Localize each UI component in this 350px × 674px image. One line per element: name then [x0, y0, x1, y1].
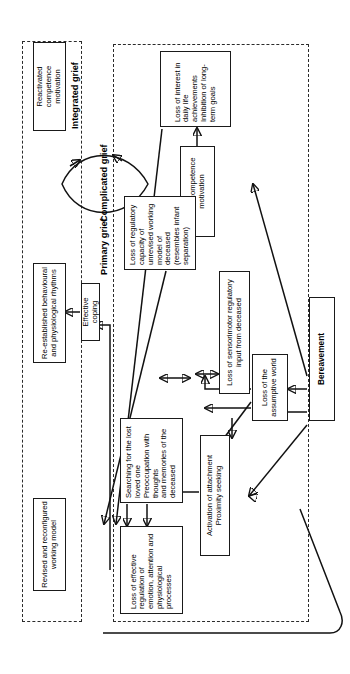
node-bereavement[interactable]: Bereavement	[309, 297, 335, 421]
node-reactivated-competence-label: Reactivated competence motivation	[36, 45, 62, 128]
node-sensorimotor-loss-label: Loss of sensorimotor regulatory input fr…	[226, 279, 244, 385]
node-activation-attachment[interactable]: Activation of attachment Proximity seeki…	[200, 435, 230, 556]
node-searching-preoccupation-label: Searching for the lost loved one Preoccu…	[125, 421, 178, 498]
label-complicated-grief: Complicated grief	[99, 144, 109, 222]
diagram-root: Bereavement Loss of the assumptive world…	[0, 0, 350, 674]
node-loss-of-interest-label: Loss of interest in daily life achieveme…	[174, 54, 218, 122]
node-effective-coping[interactable]: Effective coping	[81, 283, 100, 341]
node-reestablished-rhythms[interactable]: Re-established behavioural and physiolog…	[33, 263, 66, 363]
node-regulatory-capacity-label: Loss of regulatory capacity of unrevised…	[129, 199, 191, 265]
node-searching-preoccupation[interactable]: Searching for the lost loved one Preoccu…	[120, 418, 183, 503]
node-bereavement-label: Bereavement	[317, 333, 327, 385]
node-sensorimotor-loss[interactable]: Loss of sensorimotor regulatory input fr…	[219, 271, 250, 394]
node-revised-working-model[interactable]: Revised and reconfigured working model	[33, 498, 66, 591]
node-revised-working-model-label: Revised and reconfigured working model	[41, 501, 59, 588]
label-primary-grief: Primary grief	[99, 218, 109, 275]
node-reestablished-rhythms-label: Re-established behavioural and physiolog…	[41, 267, 59, 359]
node-assumptive-world-label: Loss of the assumptive world	[261, 358, 279, 417]
label-integrated-grief: Integrated grief	[70, 62, 80, 129]
label-integrated-grief-text: Integrated grief	[70, 62, 80, 129]
figure-canvas: Bereavement Loss of the assumptive world…	[0, 0, 350, 674]
node-activation-attachment-label: Activation of attachment Proximity seeki…	[206, 455, 224, 536]
label-complicated-grief-text: Complicated grief	[99, 144, 109, 222]
label-primary-grief-text: Primary grief	[99, 218, 109, 275]
node-loss-of-interest[interactable]: Loss of interest in daily life achieveme…	[160, 51, 231, 127]
node-assumptive-world[interactable]: Loss of the assumptive world	[252, 354, 288, 421]
node-effective-regulation-loss-label: Loss of effective regulation of emotion,…	[130, 529, 174, 609]
node-effective-regulation-loss[interactable]: Loss of effective regulation of emotion,…	[120, 526, 183, 614]
node-reactivated-competence[interactable]: Reactivated competence motivation	[33, 42, 66, 131]
node-effective-coping-label: Effective coping	[82, 286, 100, 338]
node-regulatory-capacity[interactable]: Loss of regulatory capacity of unrevised…	[124, 196, 196, 270]
